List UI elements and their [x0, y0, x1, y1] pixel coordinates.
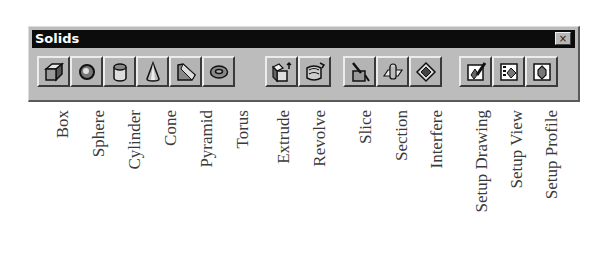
- slice-button[interactable]: [343, 56, 376, 87]
- section-button[interactable]: [376, 56, 409, 87]
- box-button[interactable]: [37, 56, 70, 87]
- label-interfere: Interfere: [426, 110, 446, 260]
- revolve-icon: [304, 61, 326, 83]
- label-extrude: Extrude: [273, 110, 293, 260]
- cylinder-icon: [109, 61, 131, 83]
- torus-button[interactable]: [202, 56, 235, 87]
- cone-button[interactable]: [136, 56, 169, 87]
- close-button[interactable]: ×: [555, 32, 571, 45]
- window-title: Solids: [35, 30, 79, 48]
- extrude-button[interactable]: [265, 56, 298, 87]
- label-pyramid: Pyramid: [196, 110, 216, 260]
- setup-profile-button[interactable]: [525, 56, 558, 87]
- pyramid-icon: [175, 61, 197, 83]
- label-setup-profile: Setup Profile: [541, 110, 561, 260]
- cylinder-button[interactable]: [103, 56, 136, 87]
- label-sphere: Sphere: [88, 110, 108, 260]
- section-icon: [382, 61, 404, 83]
- torus-icon: [208, 61, 230, 83]
- label-cylinder: Cylinder: [124, 110, 144, 260]
- title-bar[interactable]: Solids ×: [32, 30, 575, 48]
- box-icon: [43, 61, 65, 83]
- setup-drawing-button[interactable]: [459, 56, 492, 87]
- solids-toolbar-window: Solids ×: [28, 26, 580, 102]
- label-torus: Torus: [232, 110, 252, 260]
- label-cone: Cone: [160, 110, 180, 260]
- label-revolve: Revolve: [309, 110, 329, 260]
- label-slice: Slice: [355, 110, 375, 260]
- sphere-button[interactable]: [70, 56, 103, 87]
- extrude-icon: [271, 61, 293, 83]
- pyramid-button[interactable]: [169, 56, 202, 87]
- setup-view-button[interactable]: [492, 56, 525, 87]
- setup-view-icon: [498, 61, 520, 83]
- interfere-icon: [415, 61, 437, 83]
- setup-profile-icon: [531, 61, 553, 83]
- label-section: Section: [391, 110, 411, 260]
- label-setup-view: Setup View: [506, 110, 526, 260]
- setup-drawing-icon: [465, 61, 487, 83]
- slice-icon: [349, 61, 371, 83]
- label-box: Box: [52, 110, 72, 260]
- revolve-button[interactable]: [298, 56, 331, 87]
- sphere-icon: [76, 61, 98, 83]
- interfere-button[interactable]: [409, 56, 442, 87]
- label-setup-drawing: Setup Drawing: [471, 110, 491, 260]
- close-icon: ×: [559, 33, 567, 44]
- cone-icon: [142, 61, 164, 83]
